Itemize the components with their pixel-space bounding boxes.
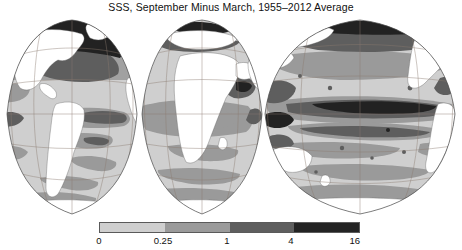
figure-title: SSS, September Minus March, 1955–2012 Av… <box>0 1 462 13</box>
colorbar-segment-3 <box>294 223 359 232</box>
colorbar-tick-label-0: 0 <box>96 235 101 246</box>
interrupted-projection-map <box>0 18 462 216</box>
colorbar-tick-label-4: 16 <box>349 235 360 246</box>
lobe-africa-indian <box>140 18 264 216</box>
colorbar-tick-label-1: 0.25 <box>154 235 173 246</box>
colorbar-segment-2 <box>230 223 295 232</box>
lobe-americas-atlantic <box>0 18 150 216</box>
map-panel <box>0 18 462 216</box>
colorbar-legend: 00.251416 <box>0 216 462 250</box>
colorbar-gradient <box>99 222 360 233</box>
colorbar-segment-1 <box>165 223 230 232</box>
colorbar-tick-label-3: 4 <box>288 235 293 246</box>
lobe-pacific <box>262 18 462 216</box>
figure-root: SSS, September Minus March, 1955–2012 Av… <box>0 0 462 250</box>
colorbar-tick-label-2: 1 <box>224 235 229 246</box>
colorbar-segment-0 <box>100 223 165 232</box>
colorbar-tick-labels: 00.251416 <box>0 235 462 249</box>
